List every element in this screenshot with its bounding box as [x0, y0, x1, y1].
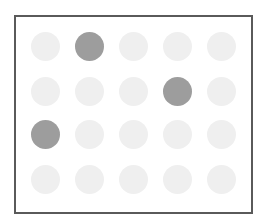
grid-cell-r3-c4[interactable]: [207, 165, 236, 194]
grid-cell-r0-c3[interactable]: [163, 32, 192, 61]
grid-cell-r2-c4[interactable]: [207, 120, 236, 149]
grid-cell-r0-c1-active[interactable]: [75, 32, 104, 61]
grid-cell-r2-c2[interactable]: [119, 120, 148, 149]
grid-cell-r0-c4[interactable]: [207, 32, 236, 61]
grid-cell-r3-c2[interactable]: [119, 165, 148, 194]
grid-cell-r1-c4[interactable]: [207, 77, 236, 106]
grid-cell-r1-c0[interactable]: [31, 77, 60, 106]
grid-cell-r0-c2[interactable]: [119, 32, 148, 61]
grid-cell-r1-c1[interactable]: [75, 77, 104, 106]
grid-cell-r0-c0[interactable]: [31, 32, 60, 61]
grid-cell-r2-c1[interactable]: [75, 120, 104, 149]
grid-cell-r1-c2[interactable]: [119, 77, 148, 106]
grid-cell-r2-c0-active[interactable]: [31, 120, 60, 149]
grid-cell-r3-c3[interactable]: [163, 165, 192, 194]
game-board: [14, 15, 253, 214]
grid-cell-r3-c1[interactable]: [75, 165, 104, 194]
grid-cell-r1-c3-active[interactable]: [163, 77, 192, 106]
grid-cell-r3-c0[interactable]: [31, 165, 60, 194]
grid-cell-r2-c3[interactable]: [163, 120, 192, 149]
